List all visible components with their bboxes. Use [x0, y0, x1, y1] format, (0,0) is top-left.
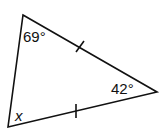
angle-label-top: 69° — [23, 28, 46, 45]
triangle-diagram: 69° 42° x — [0, 0, 168, 136]
angle-label-bottom-left: x — [14, 107, 23, 124]
angle-label-right: 42° — [111, 80, 134, 97]
